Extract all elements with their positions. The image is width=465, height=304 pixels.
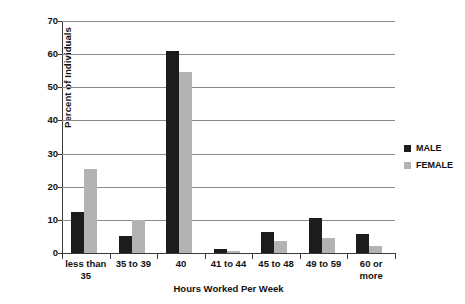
x-tick-label: 40 xyxy=(157,258,205,270)
legend-item: MALE xyxy=(404,141,464,155)
bar-group xyxy=(205,21,253,253)
bar-male xyxy=(356,234,369,253)
legend-label: MALE xyxy=(416,143,442,153)
x-tick-mark xyxy=(300,254,301,259)
x-tick-mark xyxy=(110,254,111,259)
bar-chart: Percent of Individuals 010203040506070 l… xyxy=(0,0,465,304)
bar-male xyxy=(166,51,179,253)
x-tick-label: 35 to 39 xyxy=(110,258,158,270)
x-tick-label: 41 to 44 xyxy=(205,258,253,270)
bar-group xyxy=(110,21,158,253)
y-tick-label: 70 xyxy=(47,16,58,26)
bar-male xyxy=(71,212,84,253)
bar-male xyxy=(261,232,274,253)
x-tick-mark xyxy=(252,254,253,259)
legend-label: FEMALE xyxy=(416,160,453,170)
bar-female xyxy=(274,241,287,253)
x-tick-mark xyxy=(347,254,348,259)
bar-female xyxy=(369,246,382,253)
y-tick-label: 10 xyxy=(47,215,58,225)
legend-swatch-icon xyxy=(404,162,411,169)
y-axis-tick-labels: 010203040506070 xyxy=(34,21,58,254)
y-tick-label: 50 xyxy=(47,83,58,93)
bar-male xyxy=(119,236,132,253)
x-tick-mark xyxy=(205,254,206,259)
legend-item: FEMALE xyxy=(404,158,464,172)
y-tick-label: 30 xyxy=(47,149,58,159)
bar-group xyxy=(62,21,110,253)
bar-female xyxy=(84,169,97,253)
x-tick-label: 49 to 59 xyxy=(300,258,348,270)
x-tick-mark xyxy=(62,254,63,259)
bar-group xyxy=(157,21,205,253)
x-tick-mark xyxy=(157,254,158,259)
x-tick-mark xyxy=(395,254,396,259)
x-axis-line xyxy=(62,253,396,254)
chart-legend: MALEFEMALE xyxy=(404,141,464,175)
y-tick-label: 20 xyxy=(47,182,58,192)
bar-female xyxy=(227,251,240,253)
x-tick-label: less than 35 xyxy=(62,258,110,281)
bar-groups xyxy=(62,21,395,253)
bar-female xyxy=(179,72,192,253)
bar-female xyxy=(132,220,145,253)
legend-swatch-icon xyxy=(404,145,411,152)
y-tick-label: 60 xyxy=(47,49,58,59)
x-tick-label: 45 to 48 xyxy=(252,258,300,270)
bar-group xyxy=(252,21,300,253)
bar-male xyxy=(309,218,322,253)
x-axis-title: Hours Worked Per Week xyxy=(62,283,395,294)
bar-group xyxy=(347,21,395,253)
y-tick-label: 40 xyxy=(47,116,58,126)
x-tick-label: 60 or more xyxy=(347,258,395,281)
bar-male xyxy=(214,249,227,253)
bar-group xyxy=(300,21,348,253)
bar-female xyxy=(322,238,335,253)
